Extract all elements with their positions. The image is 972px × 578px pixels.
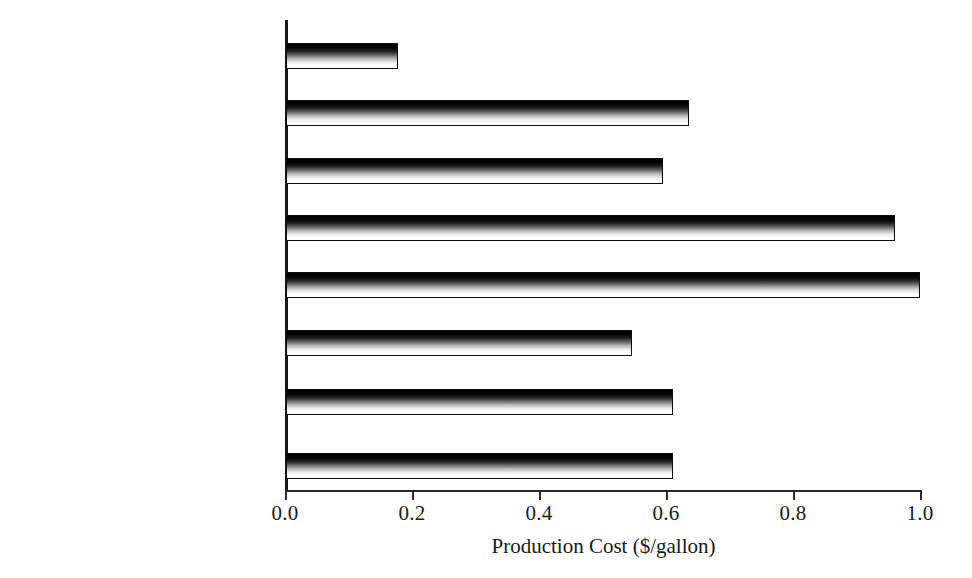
bar — [286, 43, 398, 69]
x-axis-tick-label: 0.6 — [626, 501, 706, 526]
bar-chart: Ethanol's Value as FuelStraw/Lignin/Elec… — [0, 0, 972, 578]
bar — [286, 215, 895, 241]
y-axis-line — [285, 20, 288, 491]
x-axis-line — [285, 490, 922, 492]
plot-area: Ethanol's Value as FuelStraw/Lignin/Elec… — [0, 0, 972, 578]
bar — [286, 389, 673, 415]
bar — [286, 272, 920, 298]
x-axis-title: Production Cost ($/gallon) — [285, 534, 922, 559]
x-axis-tick-label: 0.0 — [245, 501, 325, 526]
bar — [286, 100, 689, 126]
x-axis-tick-label: 0.2 — [372, 501, 452, 526]
x-axis-tick-label: 0.4 — [499, 501, 579, 526]
bar — [286, 158, 663, 184]
x-axis-tick — [666, 491, 668, 500]
bar — [286, 330, 632, 356]
x-axis-tick — [920, 491, 922, 500]
x-axis-tick — [412, 491, 414, 500]
x-axis-tick — [793, 491, 795, 500]
bar — [286, 453, 673, 479]
x-axis-tick-label: 1.0 — [880, 501, 960, 526]
x-axis-tick — [539, 491, 541, 500]
x-axis-tick-label: 0.8 — [753, 501, 833, 526]
x-axis-tick — [285, 491, 287, 500]
